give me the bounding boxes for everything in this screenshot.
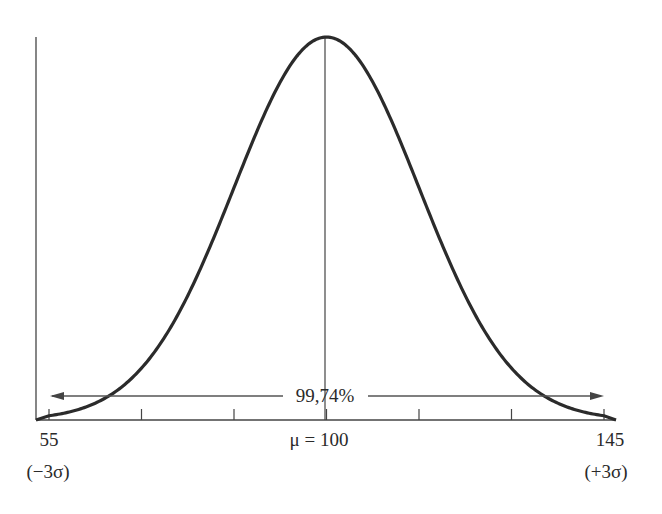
coverage-label: 99,74% [296,385,355,406]
x-axis-ticks [49,409,604,420]
x-label-left: 55 [40,429,59,450]
normal-curve [36,37,616,420]
arrow-right-icon [590,392,604,400]
normal-distribution-chart: 99,74% 55 (−3σ) μ = 100 145 (+3σ) [0,0,662,514]
x-label-left-sigma: (−3σ) [26,461,69,483]
x-label-right: 145 [596,429,625,450]
x-label-mean: μ = 100 [290,429,349,450]
x-label-right-sigma: (+3σ) [584,461,627,483]
arrow-left-icon [50,392,64,400]
